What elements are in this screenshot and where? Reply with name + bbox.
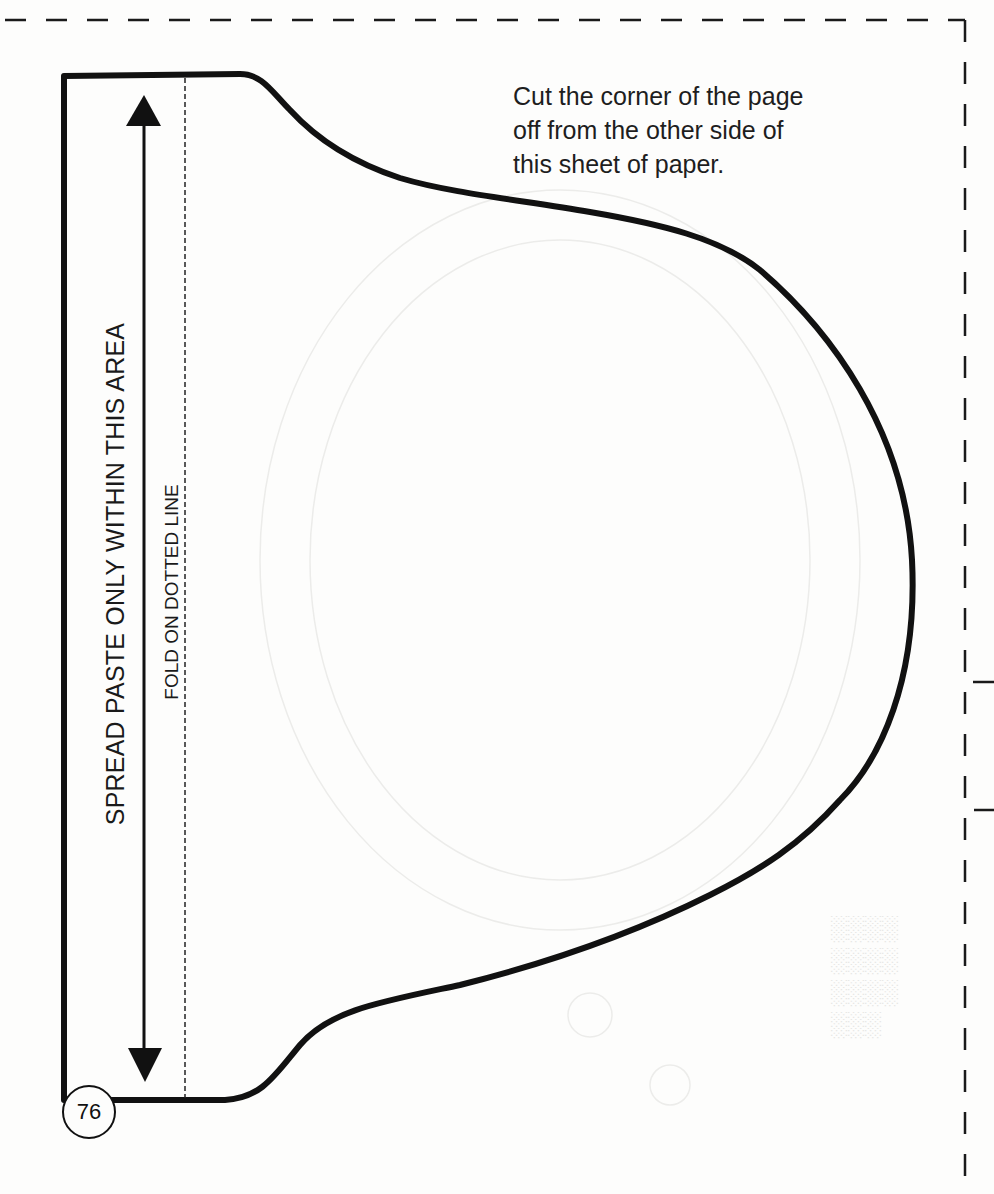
bleed-through-text: ░░░░░░░░░░░░░░░: [830, 912, 898, 1040]
page-number-badge: 76: [62, 1085, 116, 1139]
cutout-outline: [64, 74, 913, 1100]
page-number-text: 76: [77, 1099, 101, 1125]
paste-area-label: SPREAD PASTE ONLY WITHIN THIS AREA: [101, 323, 130, 825]
fold-instruction-label: FOLD ON DOTTED LINE: [161, 484, 183, 699]
paste-area-double-arrow-icon: [126, 95, 162, 1082]
worksheet-page: ░░░░░░░░░░░░░░░ Cut the corner of the pa…: [0, 0, 994, 1194]
cut-instruction-text: Cut the corner of the page off from the …: [513, 79, 893, 181]
bleed-through-ghost: [260, 190, 860, 1105]
